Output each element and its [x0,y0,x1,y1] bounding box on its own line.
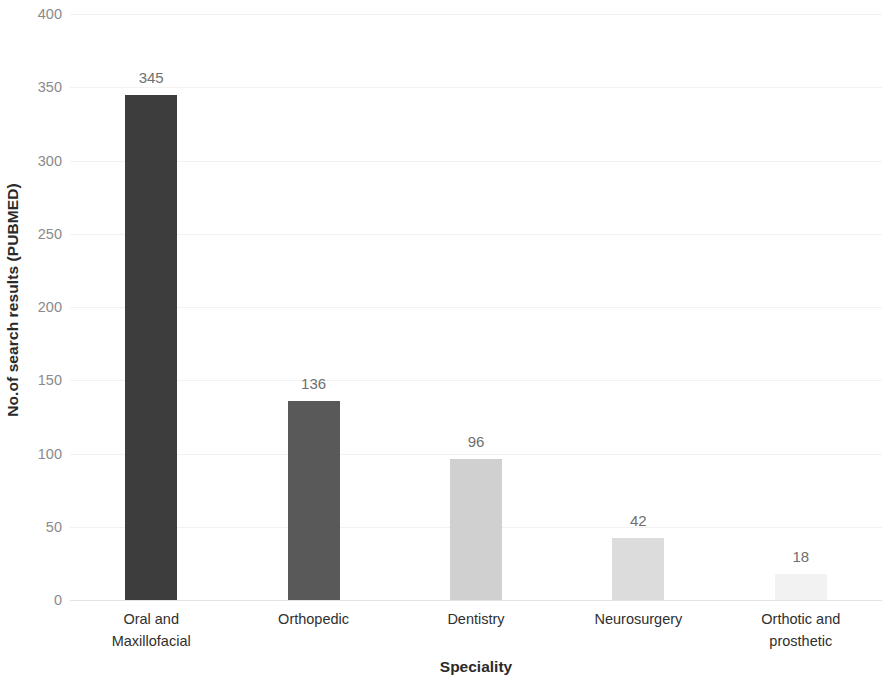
bar-slot: 96 [395,0,557,600]
y-axis-tick-label: 150 [18,372,62,388]
x-axis-tick-label-line1: Orthopedic [278,611,349,627]
bar[interactable] [775,574,827,600]
x-axis-tick-label-line2: prosthetic [720,630,882,652]
x-axis-tick-label: Oral andMaxillofacial [70,608,232,652]
y-axis-tick-label: 50 [18,519,62,535]
y-axis-tick-label: 400 [18,6,62,22]
y-axis-tick-label: 100 [18,446,62,462]
gridline [70,600,882,601]
bar-slot: 136 [232,0,394,600]
y-axis-tick-labels: 400350300250200150100500 [14,0,62,688]
x-axis-title: Speciality [70,658,882,676]
bar[interactable] [612,538,664,600]
plot-area: 345136964218 [70,0,882,600]
bar-slot: 18 [720,0,882,600]
y-axis-tick-label: 250 [18,226,62,242]
x-axis-tick-label-line1: Dentistry [447,611,504,627]
bar-slot: 42 [557,0,719,600]
bars-layer: 345136964218 [70,0,882,600]
x-axis-tick-label-line1: Orthotic and [761,611,840,627]
x-axis-tick-label-line1: Oral and [123,611,179,627]
bar[interactable] [125,95,177,600]
bar-value-label: 96 [468,433,485,450]
bar-value-label: 345 [139,69,164,86]
bar[interactable] [450,459,502,600]
y-axis-tick-label: 350 [18,79,62,95]
x-axis-tick-label: Neurosurgery [557,608,719,630]
x-axis-tick-label: Dentistry [395,608,557,630]
y-axis-tick-label: 0 [18,592,62,608]
bar[interactable] [288,401,340,600]
x-axis-tick-label: Orthotic andprosthetic [720,608,882,652]
x-axis-tick-labels: Oral andMaxillofacialOrthopedicDentistry… [70,608,882,660]
x-axis-tick-label: Orthopedic [232,608,394,630]
y-axis-tick-label: 300 [18,153,62,169]
bar-value-label: 18 [792,548,809,565]
bar-value-label: 136 [301,375,326,392]
x-axis-tick-label-line1: Neurosurgery [594,611,682,627]
x-axis-tick-label-line2: Maxillofacial [70,630,232,652]
bar-slot: 345 [70,0,232,600]
y-axis-tick-label: 200 [18,299,62,315]
bar-value-label: 42 [630,512,647,529]
bar-chart: No.of search results (PUBMED) 4003503002… [0,0,882,688]
